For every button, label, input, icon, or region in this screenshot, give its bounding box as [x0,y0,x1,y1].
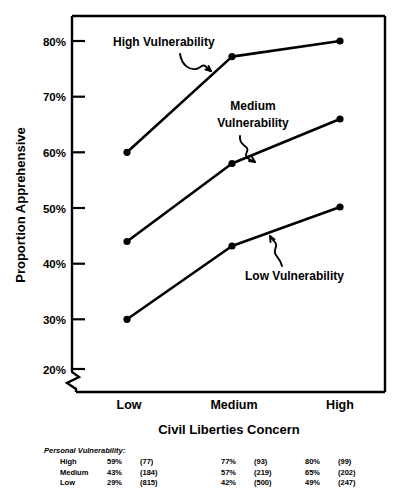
table-row-label: Medium [60,468,89,477]
table-cell-n: (99) [338,457,352,466]
table-row: Low 29% (815) 42% (500) 49% (247) [60,478,356,487]
y-tick-label-40: 40% [43,258,66,270]
table-cell-n: (202) [338,468,356,477]
x-category-label-medium: Medium [210,398,257,412]
y-tick-label-30: 30% [43,314,66,326]
x-category-label-high: High [326,398,354,412]
y-axis-ticks [72,41,85,369]
data-point [336,115,343,122]
data-point [228,242,235,249]
series-high-vulnerability [123,37,343,155]
data-table-header: Personal Vulnerability: [44,446,126,455]
annotation-low-squiggle [270,236,282,266]
x-category-label-low: Low [117,398,142,412]
annotation-low-vulnerability: Low Vulnerability [245,236,344,283]
table-row-label: Low [60,478,75,487]
annotation-medium-vulnerability: Medium Vulnerability [217,99,289,162]
y-axis-tick-labels: 80% 70% 60% 50% 40% 30% 20% [43,36,66,376]
annotation-high-squiggle [180,54,211,71]
table-cell-pct: 43% [107,468,122,477]
series-medium-line [127,119,340,242]
table-cell-pct: 29% [107,478,122,487]
data-point [123,238,130,245]
series-medium-vulnerability [123,115,343,245]
y-tick-label-50: 50% [43,203,66,215]
table-cell-pct: 42% [221,478,236,487]
annotation-high-vulnerability: High Vulnerability [113,35,215,71]
table-cell-n: (184) [140,468,158,477]
y-tick-label-70: 70% [43,91,66,103]
y-axis-title: Proportion Apprehensive [13,127,28,283]
y-tick-label-60: 60% [43,147,66,159]
data-point [336,37,343,44]
table-cell-n: (815) [140,478,158,487]
series-low-line [127,207,340,319]
data-point [123,316,130,323]
annotation-medium-label-line2: Vulnerability [217,116,289,130]
chart-figure: 80% 70% 60% 50% 40% 30% 20% Proportion A… [0,0,403,501]
x-axis-category-labels: Low Medium High [117,398,354,412]
table-cell-pct: 77% [221,457,236,466]
table-cell-pct: 65% [305,468,320,477]
data-point [336,203,343,210]
table-cell-n: (500) [254,478,272,487]
line-chart: 80% 70% 60% 50% 40% 30% 20% Proportion A… [0,0,403,501]
y-tick-label-20: 20% [43,364,66,376]
table-cell-n: (247) [338,478,356,487]
table-cell-n: (77) [140,457,154,466]
annotation-medium-label-line1: Medium [230,99,275,113]
data-point [228,160,235,167]
data-point [228,53,235,60]
table-row: Medium 43% (184) 57% (219) 65% (202) [60,468,356,477]
table-row: High 59% (77) 77% (93) 80% (99) [60,457,352,466]
table-cell-pct: 80% [305,457,320,466]
table-cell-n: (93) [254,457,268,466]
plot-frame [67,16,385,392]
annotation-high-label: High Vulnerability [113,35,215,49]
table-cell-pct: 59% [107,457,122,466]
y-tick-label-80: 80% [43,36,66,48]
series-low-vulnerability [123,203,343,323]
table-cell-pct: 49% [305,478,320,487]
y-axis-break-zigzag [67,369,79,392]
data-point [123,149,130,156]
annotation-low-label: Low Vulnerability [245,269,344,283]
table-cell-pct: 57% [221,468,236,477]
x-axis-title: Civil Liberties Concern [158,422,300,437]
table-cell-n: (219) [254,468,272,477]
data-table: Personal Vulnerability: High 59% (77) 77… [44,446,356,487]
table-row-label: High [60,457,77,466]
